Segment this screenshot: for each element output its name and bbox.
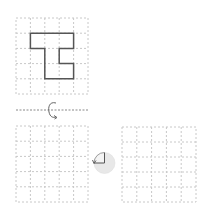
quarter-turn-icon bbox=[93, 153, 116, 174]
rotation-puzzle-diagram bbox=[0, 0, 208, 218]
rotate-flip-arrow-icon bbox=[49, 103, 57, 119]
source-grid bbox=[16, 18, 88, 94]
result-grid-right bbox=[122, 127, 196, 202]
source-shape bbox=[30, 33, 73, 79]
result-grid-left bbox=[16, 126, 88, 202]
